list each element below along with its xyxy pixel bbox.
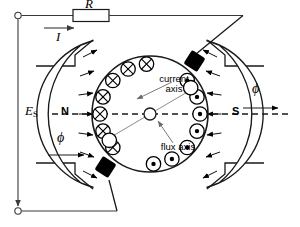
pole-label-north: N <box>61 106 69 118</box>
source-emf-label: ES <box>25 104 38 119</box>
wire-to-bottom-brush <box>109 180 117 211</box>
flux-label-upper-right: ϕ <box>252 82 259 97</box>
dc-machine-figure: R I ES ϕ ϕ N S current axis flux axis <box>0 0 300 227</box>
conductor-dot <box>146 157 160 171</box>
conductor-dot <box>165 152 179 166</box>
dc-machine-schematic <box>0 0 300 227</box>
conductor-cross <box>106 73 120 87</box>
pole-label-south: S <box>232 106 239 118</box>
current-label: I <box>56 30 60 44</box>
wire-to-top-brush <box>196 16 243 55</box>
current-axis-label: current axis <box>143 74 205 94</box>
current-axis-label-line2: axis <box>166 83 183 94</box>
terminal-bottom <box>15 208 21 214</box>
flux-axis-label: flux axis <box>148 142 208 152</box>
source-emf-symbol: E <box>25 103 33 118</box>
conductor-cross <box>139 57 153 71</box>
flux-label-left: ϕ <box>57 131 64 146</box>
conductor-dot <box>190 124 204 138</box>
conductor-plain-bottom <box>102 133 116 147</box>
resistor-label: R <box>85 0 93 11</box>
conductor-cross <box>96 90 110 104</box>
terminal-top <box>15 12 21 18</box>
rotor-armature <box>52 50 290 178</box>
rotor-shaft <box>144 108 156 120</box>
resistor-R <box>73 10 109 22</box>
conductor-dot <box>193 107 207 121</box>
source-emf-subscript: S <box>33 109 38 119</box>
conductor-cross <box>93 107 107 121</box>
conductor-cross <box>121 62 135 76</box>
